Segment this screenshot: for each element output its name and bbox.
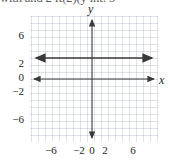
axes-and-line-graphic: [30, 16, 158, 142]
graph-screenshot: with and 2 ft(2)(y int: 3 6 2 0 −2 −6 −: [0, 0, 170, 163]
y-tick-label-0: 0: [8, 71, 24, 83]
y-tick-label-minus-6: −6: [4, 113, 24, 125]
x-axis-label: x: [159, 73, 164, 88]
y-tick-label-minus-2: −2: [4, 85, 24, 97]
y-tick-label-2: 2: [8, 57, 24, 69]
coordinate-plane: [30, 16, 158, 142]
x-tick-label-6: 6: [127, 144, 139, 156]
x-tick-label-minus-6: −6: [42, 144, 60, 156]
x-tick-label-0: 0: [86, 144, 98, 156]
y-tick-label-6: 6: [8, 29, 24, 41]
clipped-caption-text: with and 2 ft(2)(y int: 3: [0, 0, 170, 7]
y-axis-label: y: [88, 2, 93, 17]
x-tick-label-2: 2: [99, 144, 111, 156]
